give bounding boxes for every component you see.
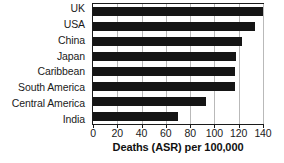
category-axis-labels: UK USA China Japan Caribbean South Ameri… xyxy=(0,3,88,125)
bar-series xyxy=(93,4,263,124)
x-tick-label-0: 0 xyxy=(90,127,96,139)
bar-chart: UK USA China Japan Caribbean South Ameri… xyxy=(0,0,284,163)
bar-china xyxy=(93,37,242,46)
bar-japan xyxy=(93,52,236,61)
category-label-central-america: Central America xyxy=(0,98,88,109)
x-tick-label-140: 140 xyxy=(254,127,271,139)
x-tick-label-60: 60 xyxy=(160,127,171,139)
category-label-japan: Japan xyxy=(0,51,88,62)
bar-row xyxy=(93,34,263,49)
bar-row xyxy=(93,64,263,79)
category-label-caribbean: Caribbean xyxy=(0,66,88,77)
category-label-usa: USA xyxy=(0,19,88,30)
x-tick-label-120: 120 xyxy=(230,127,247,139)
bar-row xyxy=(93,4,263,19)
x-axis-tick-labels: 020406080100120140 xyxy=(92,127,264,140)
bar-row xyxy=(93,109,263,124)
x-tick-label-80: 80 xyxy=(184,127,195,139)
category-label-south-america: South America xyxy=(0,82,88,93)
bar-row xyxy=(93,94,263,109)
bar-india xyxy=(93,112,178,121)
chart-screenshot: UK USA China Japan Caribbean South Ameri… xyxy=(0,0,284,163)
bar-row xyxy=(93,79,263,94)
bar-row xyxy=(93,49,263,64)
category-label-uk: UK xyxy=(0,3,88,14)
gridline-140 xyxy=(263,4,264,124)
x-tick-label-100: 100 xyxy=(206,127,223,139)
x-tick-label-20: 20 xyxy=(112,127,123,139)
bar-row xyxy=(93,19,263,34)
category-label-india: India xyxy=(0,114,88,125)
x-tick-label-40: 40 xyxy=(136,127,147,139)
category-label-china: China xyxy=(0,35,88,46)
x-axis-title: Deaths (ASR) per 100,000 xyxy=(92,141,264,153)
bar-central-america xyxy=(93,97,206,106)
bar-south-america xyxy=(93,82,235,91)
bar-usa xyxy=(93,22,255,31)
bar-uk xyxy=(93,7,263,16)
plot-area xyxy=(92,3,264,125)
bar-caribbean xyxy=(93,67,235,76)
